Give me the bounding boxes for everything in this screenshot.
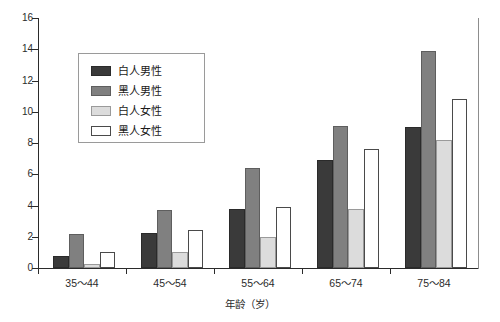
y-tick-label: 0 [27,263,33,273]
y-tick-label: 10 [22,107,33,117]
x-tick-mark [390,268,391,274]
legend-item: 黑人男性 [91,81,204,101]
x-axis-line [38,268,478,269]
bar [405,127,421,268]
legend: 白人男性 黑人男性 白人女性 黑人女性 [78,53,205,143]
legend-label: 黑人男性 [118,86,162,97]
x-tick-mark [214,268,215,274]
bar [260,237,276,268]
legend-swatch-icon [91,86,111,96]
bar [69,234,85,268]
bar [276,207,292,268]
bar [317,160,333,268]
bar [452,99,468,268]
x-tick-label: 35～44 [65,278,98,289]
legend-label: 白人女性 [118,106,162,117]
bar [436,140,452,268]
y-tick-label: 12 [22,76,33,86]
legend-label: 黑人女性 [118,126,162,137]
x-tick-mark [302,268,303,274]
x-tick-mark [126,268,127,274]
bar [53,256,69,269]
y-tick-label: 6 [27,169,33,179]
x-tick-label: 65～74 [329,278,362,289]
bar [172,252,188,268]
plot-right-border [478,18,479,269]
bar [100,252,116,268]
bar [141,233,157,268]
x-tick-mark [38,268,39,274]
bar [157,210,173,268]
bar [188,230,204,268]
legend-item: 白人女性 [91,101,204,121]
bar [421,51,437,268]
bar [84,264,100,268]
legend-swatch-icon [91,106,111,116]
x-tick-label: 55～64 [241,278,274,289]
x-tick-label: 45～54 [153,278,186,289]
y-tick-label: 8 [27,138,33,148]
bar [229,209,245,268]
legend-swatch-icon [91,66,111,76]
legend-label: 白人男性 [118,66,162,77]
legend-swatch-icon [91,126,111,136]
y-tick-label: 16 [22,13,33,23]
y-tick-label: 2 [27,232,33,242]
legend-item: 黑人女性 [91,121,204,141]
y-tick-label: 4 [27,201,33,211]
bar [333,126,349,268]
bar [364,149,380,268]
x-tick-label: 75～84 [417,278,450,289]
legend-item: 白人男性 [91,61,204,81]
x-axis-title: 年龄（岁） [0,296,500,311]
bar-chart: 0246810121416 35～4445～5455～6465～7475～84 … [0,0,500,322]
y-tick-label: 14 [22,44,33,54]
bar [245,168,261,268]
bar [348,209,364,268]
